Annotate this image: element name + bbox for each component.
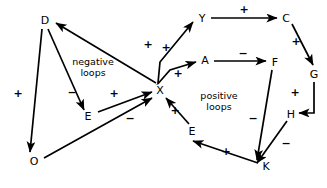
node-G[interactable]: G bbox=[309, 69, 320, 80]
annotation-negative-loops: negative loops bbox=[72, 57, 114, 78]
annotation-negative-loops-line1: negative bbox=[72, 57, 114, 68]
sign-Y-to-C: + bbox=[239, 4, 248, 15]
sign-C-to-G: + bbox=[291, 36, 300, 47]
sign-X-to-D: + bbox=[143, 39, 152, 50]
edge-O-to-X bbox=[44, 98, 152, 158]
node-D[interactable]: D bbox=[40, 15, 50, 26]
sign-F-to-K: − bbox=[248, 113, 257, 124]
sign-O-to-X: − bbox=[125, 113, 134, 124]
sign-E-right-to-X: + bbox=[170, 105, 179, 116]
node-Y[interactable]: Y bbox=[198, 13, 207, 24]
annotation-positive-loops-line1: positive bbox=[200, 91, 237, 102]
sign-E-left-to-X: + bbox=[109, 88, 118, 99]
sign-D-to-E-left: − bbox=[67, 87, 76, 98]
node-E-left[interactable]: E bbox=[84, 111, 93, 122]
node-A[interactable]: A bbox=[200, 55, 210, 66]
edge-G-to-H bbox=[299, 82, 314, 113]
node-C[interactable]: C bbox=[281, 13, 291, 24]
annotation-positive-loops: positive loops bbox=[200, 91, 237, 112]
node-K[interactable]: K bbox=[261, 161, 270, 172]
node-H[interactable]: H bbox=[286, 109, 296, 120]
annotation-positive-loops-line2: loops bbox=[200, 101, 237, 112]
sign-X-to-A: + bbox=[173, 68, 182, 79]
node-O[interactable]: O bbox=[29, 156, 40, 167]
edge-D-to-O bbox=[30, 29, 42, 152]
sign-H-to-K: − bbox=[281, 138, 290, 149]
sign-K-to-E-right: + bbox=[221, 146, 230, 157]
diagram-canvas: D E O X Y A C F G H E K + + − + − + + + … bbox=[0, 0, 327, 188]
sign-G-to-H: + bbox=[290, 87, 299, 98]
node-X[interactable]: X bbox=[155, 85, 165, 96]
node-F[interactable]: F bbox=[271, 57, 279, 68]
sign-X-to-Y: + bbox=[161, 42, 170, 53]
sign-D-to-O: + bbox=[13, 88, 22, 99]
annotation-negative-loops-line2: loops bbox=[72, 67, 114, 78]
node-E-right[interactable]: E bbox=[188, 126, 197, 137]
sign-A-to-F: − bbox=[238, 48, 247, 59]
